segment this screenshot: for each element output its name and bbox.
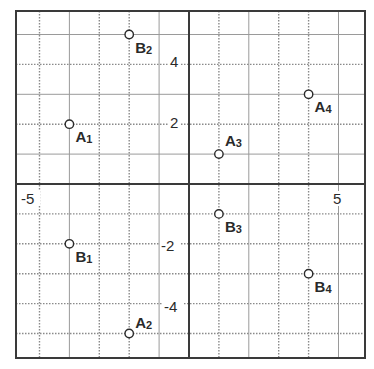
tick-label: -4 — [164, 298, 177, 315]
point-label: B4 — [315, 278, 333, 295]
point-marker-icon — [125, 30, 133, 38]
point-marker-icon — [65, 120, 73, 128]
point-label: B3 — [225, 218, 242, 235]
point-marker-icon — [125, 329, 133, 337]
point-label: A4 — [315, 98, 333, 115]
tick-label: -2 — [161, 237, 174, 254]
tick-label: 5 — [333, 190, 341, 207]
point-marker-icon — [65, 240, 73, 248]
axes — [16, 11, 365, 358]
point-label: B2 — [135, 39, 152, 56]
point-marker-icon — [215, 150, 223, 158]
point-label: A3 — [225, 132, 242, 149]
coordinate-grid-diagram: 42-2-4-55 A1A2A3A4B1B2B3B4 — [0, 0, 374, 369]
tick-label: 2 — [170, 114, 178, 131]
point-marker-icon — [215, 210, 223, 218]
point-marker-icon — [304, 90, 312, 98]
tick-label: -5 — [21, 190, 34, 207]
tick-label: 4 — [170, 53, 178, 70]
point-label: A1 — [75, 128, 92, 145]
point-marker-icon — [304, 270, 312, 278]
point-label: B1 — [75, 248, 92, 265]
point-label: A2 — [135, 314, 152, 331]
